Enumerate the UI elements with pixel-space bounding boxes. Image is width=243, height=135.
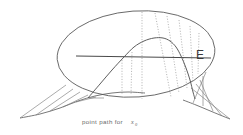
- fan-right-envelope: [183, 100, 230, 119]
- projection-dotted-lines-group: [122, 12, 199, 99]
- fan-right-projection-ray-1: [191, 88, 230, 119]
- fan-left-rays: [20, 85, 104, 118]
- dotted-8: [131, 52, 132, 95]
- point-path-diagram: E point path for x 0: [0, 0, 243, 135]
- dotted-2: [155, 13, 171, 97]
- caption-variable: x: [130, 118, 134, 125]
- dotted-5: [190, 26, 193, 82]
- figure-container: E point path for x 0: [0, 0, 243, 135]
- point-path-curve: [88, 38, 195, 99]
- fan-right-rays: [191, 72, 230, 119]
- caption-subscript: 0: [135, 122, 138, 127]
- caption-group: point path for x 0: [82, 118, 138, 127]
- set-ellipse-E: [54, 6, 218, 103]
- fan-right-projection-ray-3: [200, 80, 213, 111]
- set-label-E: E: [196, 48, 204, 62]
- fan-right-projection-ray-2: [196, 84, 222, 116]
- caption-text: point path for: [82, 118, 123, 125]
- fan-left-envelope: [20, 92, 145, 118]
- horizontal-axis-line: [76, 56, 211, 58]
- set-ellipse-group: [54, 6, 218, 103]
- fan-left-projection-ray-4: [63, 95, 88, 107]
- fan-left-group: [20, 85, 145, 118]
- dotted-3: [167, 16, 179, 93]
